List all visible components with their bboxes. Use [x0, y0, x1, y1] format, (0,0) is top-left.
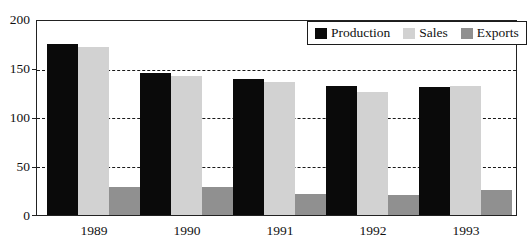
- x-tick-label-1992: 1992: [325, 224, 421, 238]
- production-swatch-icon: [315, 28, 327, 39]
- bar-production-1989: [47, 44, 78, 215]
- bar-group-1991: [233, 21, 329, 215]
- bar-exports-1989: [109, 187, 140, 215]
- exports-swatch-icon: [461, 28, 473, 39]
- x-tick-label-1991: 1991: [232, 224, 328, 238]
- legend-item-exports: Exports: [461, 26, 519, 40]
- bar-exports-1990: [202, 187, 233, 215]
- bar-production-1993: [419, 87, 450, 215]
- bar-exports-1993: [481, 190, 512, 215]
- y-tick-label-0: 0: [0, 209, 30, 223]
- legend-label-sales: Sales: [419, 26, 448, 40]
- y-tick-label-50: 50: [0, 160, 30, 174]
- bar-group-1990: [140, 21, 236, 215]
- bar-group-1989: [47, 21, 143, 215]
- bar-group-1993: [419, 21, 515, 215]
- legend-item-production: Production: [315, 26, 390, 40]
- y-tick-label-200: 200: [0, 13, 30, 27]
- bar-sales-1991: [264, 82, 295, 215]
- y-tick-label-150: 150: [0, 62, 30, 76]
- bar-production-1991: [233, 79, 264, 215]
- x-tick-label-1990: 1990: [139, 224, 235, 238]
- legend-item-sales: Sales: [403, 26, 448, 40]
- bar-sales-1989: [78, 47, 109, 215]
- legend-label-exports: Exports: [477, 26, 519, 40]
- bar-exports-1991: [295, 194, 326, 215]
- legend-label-production: Production: [331, 26, 390, 40]
- bar-group-1992: [326, 21, 422, 215]
- plot-area: [36, 20, 517, 216]
- y-tick-label-100: 100: [0, 111, 30, 125]
- chart-legend: Production Sales Exports: [307, 21, 527, 45]
- bar-production-1990: [140, 73, 171, 215]
- bar-sales-1993: [450, 86, 481, 215]
- bar-exports-1992: [388, 195, 419, 215]
- x-tick-label-1989: 1989: [46, 224, 142, 238]
- x-tick-label-1993: 1993: [418, 224, 514, 238]
- sales-swatch-icon: [403, 28, 415, 39]
- bar-sales-1990: [171, 76, 202, 215]
- bar-sales-1992: [357, 92, 388, 215]
- bar-chart: 200 150 100 50 0: [0, 0, 529, 251]
- bar-production-1992: [326, 86, 357, 215]
